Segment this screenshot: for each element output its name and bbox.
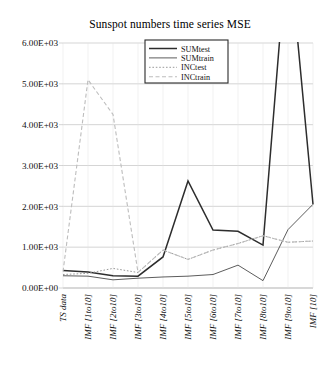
y-axis-tick-label: 2.00E+03	[22, 202, 58, 212]
y-axis-tick-label: 0.00E+00	[22, 283, 58, 293]
chart-plot-svg: 0.00E+001.00E+032.00E+033.00E+034.00E+03…	[0, 0, 319, 373]
x-axis-tick-label: IMF [1to10]	[83, 294, 93, 341]
x-axis-tick-label: IMF [3to10]	[133, 294, 143, 341]
y-axis-tick-label: 4.00E+03	[22, 120, 58, 130]
x-axis-tick-label: IMF [8to10]	[258, 294, 268, 341]
chart-legend: SUMtestSUMtrainINCtestINCtrain	[145, 40, 228, 83]
legend-label-inctest: INCtest	[181, 63, 207, 72]
chart-container: Sunspot numbers time series MSE 0.00E+00…	[0, 0, 319, 373]
x-axis-tick-label: IMF [2to10]	[108, 294, 118, 341]
legend-label-sumtrain: SUMtrain	[181, 54, 214, 63]
y-axis-tick-label: 3.00E+03	[22, 161, 58, 171]
x-axis-tick-label: IMF [4to10]	[158, 294, 168, 341]
y-axis-tick-labels: 0.00E+001.00E+032.00E+033.00E+034.00E+03…	[22, 38, 63, 293]
legend-label-inctrain: INCtrain	[181, 73, 210, 82]
x-axis-tick-label: IMF [7to10]	[233, 294, 243, 341]
x-axis-tick-label: IMF [6to10]	[208, 294, 218, 341]
x-axis-tick-labels: TS dataIMF [1to10]IMF [2to10]IMF [3to10]…	[58, 294, 318, 341]
x-axis-tick-label: IMF [9to10]	[283, 294, 293, 341]
x-axis-tick-label: IMF [5to10]	[183, 294, 193, 341]
x-axis-tick-label: TS data	[58, 294, 68, 322]
legend-label-sumtest: SUMtest	[181, 45, 211, 54]
y-axis-tick-label: 1.00E+03	[22, 242, 58, 252]
x-axis-tick-label: IMF [10]	[308, 294, 318, 330]
y-axis-tick-label: 6.00E+03	[22, 38, 58, 48]
y-axis-tick-label: 5.00E+03	[22, 79, 58, 89]
